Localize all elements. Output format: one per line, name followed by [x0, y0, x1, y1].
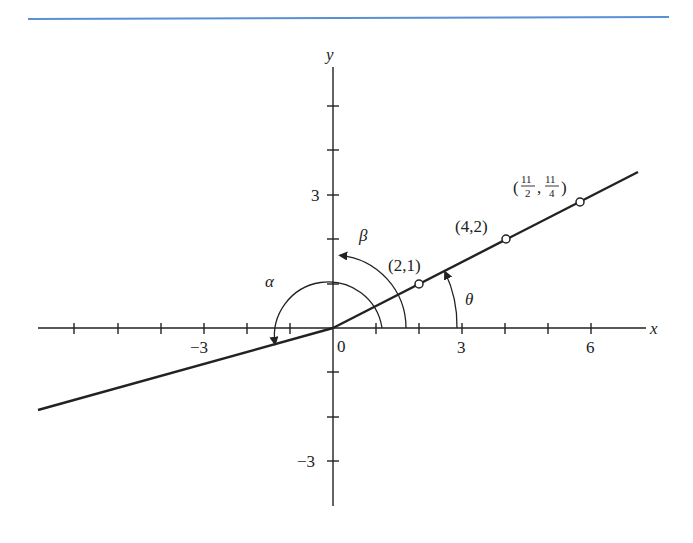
point-label-2-1: (2,1)	[388, 256, 421, 275]
point-label-4-2: (4,2)	[455, 217, 488, 236]
point-2-1	[415, 280, 423, 288]
svg-text:(: (	[513, 178, 519, 197]
point-label-11-2-11-4: ( 11 2 , 11 4 )	[513, 173, 567, 199]
x-tick-label-6: 6	[586, 338, 595, 357]
theta-arc	[445, 272, 457, 328]
y-axis-label: y	[324, 45, 334, 64]
point-11-2-11-4	[576, 198, 584, 206]
ray-negative	[38, 328, 333, 410]
svg-text:2: 2	[525, 187, 531, 199]
x-axis-label: x	[649, 319, 658, 338]
svg-text:): )	[561, 178, 567, 197]
theta-label: θ	[465, 290, 473, 309]
coordinate-diagram: y x 0 −3 3 6 3 −3 α β θ (2,1) (4,2) ( 11…	[0, 0, 693, 543]
svg-text:11: 11	[521, 173, 532, 185]
alpha-arc	[274, 282, 382, 344]
y-axis	[327, 67, 339, 506]
x-tick-label-3: 3	[457, 338, 466, 357]
svg-text:,: ,	[537, 178, 541, 197]
origin-label: 0	[337, 337, 346, 356]
beta-label: β	[358, 226, 368, 245]
header-rule	[28, 17, 669, 19]
ray-positive	[333, 172, 638, 328]
y-tick-label-neg3: −3	[297, 452, 315, 471]
svg-text:4: 4	[549, 187, 555, 199]
svg-text:11: 11	[545, 173, 556, 185]
alpha-label: α	[265, 272, 275, 291]
y-tick-label-3: 3	[311, 186, 320, 205]
point-4-2	[502, 235, 510, 243]
x-tick-label-neg3: −3	[190, 338, 208, 357]
